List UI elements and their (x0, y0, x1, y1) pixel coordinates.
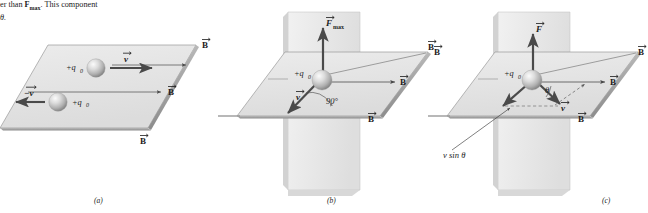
panel-c-field-label-left-text: B (428, 42, 434, 52)
panel-b-field-label-1: B (434, 45, 442, 57)
panel-c-charge-label-text: +q (504, 69, 514, 78)
panel-b-field-label-2-text: B (400, 77, 406, 87)
magnetic-force-figure: +q 0 +q 0 v −v B B B (0, 0, 648, 213)
panel-c-angle-label: θ (545, 85, 549, 95)
panel-c-vertical-plane-bottom (498, 190, 570, 196)
panel-a-field-label-2: B (168, 85, 176, 97)
panel-b-angle-label: 90° (326, 96, 339, 106)
panel-b-field-label-1-text: B (434, 47, 440, 57)
panel-a-charge-label-upper-sub: 0 (80, 68, 83, 74)
panel-a-field-label-2-text: B (168, 87, 174, 97)
panel-c-field-label-3-text: B (578, 114, 584, 124)
panel-a-charge-label-lower-sub: 0 (86, 102, 89, 108)
panel-c-field-label-1: B (638, 45, 646, 57)
panel-a-charge-label-upper-text: +q (66, 63, 76, 72)
panel-a-charge-upper (87, 59, 105, 77)
panel-c-charge-label-sub: 0 (518, 74, 521, 80)
panel-b-vertical-plane-bottom (288, 190, 360, 196)
panel-a-field-label-1: B (202, 38, 210, 50)
panel-b-force-label-text: F (325, 18, 332, 28)
panel-b: F max +q 0 v 90° B B B (218, 12, 442, 196)
panel-c-field-label-2-text: B (610, 77, 616, 87)
panel-b-charge-label-sub: 0 (308, 74, 311, 80)
panel-a-field-label-3: B (140, 134, 148, 146)
panel-b-charge-label-text: +q (294, 69, 304, 78)
panel-a-plane-edge-bottom (0, 128, 151, 131)
panel-c-component-label: v sin θ (443, 150, 466, 160)
panel-b-plane-edge-bottom (237, 116, 383, 119)
panel-c-force-label-text: F (535, 24, 542, 34)
panel-b-charge-sphere (312, 70, 332, 90)
panel-a-charge-label-lower-text: +q (72, 98, 82, 107)
panel-a-field-label-1-text: B (202, 40, 208, 50)
panel-c-charge-sphere (522, 70, 542, 90)
panel-c-plane-edge-bottom (447, 116, 593, 119)
panel-b-force-label-sub: max (333, 24, 344, 30)
panel-a: +q 0 +q 0 v −v B B B (0, 38, 210, 146)
panel-a-velocity-label-lower-text: −v (24, 88, 34, 98)
panel-c-field-label-1-text: B (638, 47, 644, 57)
panel-a-charge-lower (49, 93, 67, 111)
panel-a-plane (0, 45, 196, 128)
panel-a-field-label-3-text: B (140, 136, 146, 146)
panel-c: F +q 0 θ v v sin θ B B B (428, 12, 646, 196)
panel-b-field-label-3-text: B (368, 114, 374, 124)
